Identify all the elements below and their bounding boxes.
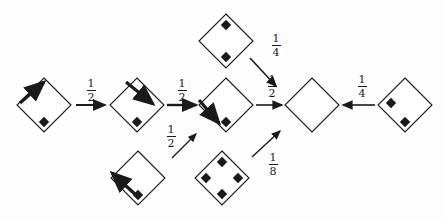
edge-label-bottom-mid-empty-denominator: 8	[263, 165, 283, 177]
edge-label-b-c-numerator: 1	[172, 78, 192, 90]
edge-label-right-empty-denominator: 4	[352, 87, 372, 99]
edge-label-c-empty-denominator: 2	[262, 87, 282, 99]
edge-label-right-empty: 14	[352, 74, 372, 99]
diamond-node-bottom-left[interactable]	[111, 151, 165, 205]
diamond-node-bottom-mid[interactable]	[195, 151, 249, 205]
edge-label-right-empty-numerator: 1	[352, 74, 372, 86]
edge-label-bottom-left-c-denominator: 2	[161, 137, 181, 149]
diamond-node-a[interactable]	[17, 78, 71, 132]
diamond-node-right[interactable]	[378, 78, 432, 132]
edge-label-a-b-numerator: 1	[81, 78, 101, 90]
edge-label-top-empty: 14	[266, 33, 286, 58]
diamond-node-c[interactable]	[199, 78, 253, 132]
edge-label-a-b: 12	[81, 78, 101, 103]
edge-label-bottom-left-c: 12	[161, 124, 181, 149]
edge-label-b-c: 12	[172, 78, 192, 103]
diamond-node-b[interactable]	[110, 78, 164, 132]
diamond-node-empty[interactable]	[285, 78, 339, 132]
nodes-group	[17, 14, 432, 205]
edge-label-a-b-denominator: 2	[81, 91, 101, 103]
edge-label-bottom-mid-empty-numerator: 1	[263, 152, 283, 164]
edge-label-bottom-mid-empty: 18	[263, 152, 283, 177]
edge-label-b-c-denominator: 2	[172, 91, 192, 103]
edge-label-c-empty: 12	[262, 74, 282, 99]
edge-label-c-empty-numerator: 1	[262, 74, 282, 86]
diagram-canvas: 12121214121814	[0, 0, 443, 220]
edge-label-top-empty-denominator: 4	[266, 46, 286, 58]
edge-label-bottom-left-c-numerator: 1	[161, 124, 181, 136]
diamond-node-empty-outline	[285, 78, 339, 132]
edge-label-top-empty-numerator: 1	[266, 33, 286, 45]
diamond-node-top[interactable]	[199, 14, 253, 68]
diagram-graphics	[0, 0, 443, 220]
